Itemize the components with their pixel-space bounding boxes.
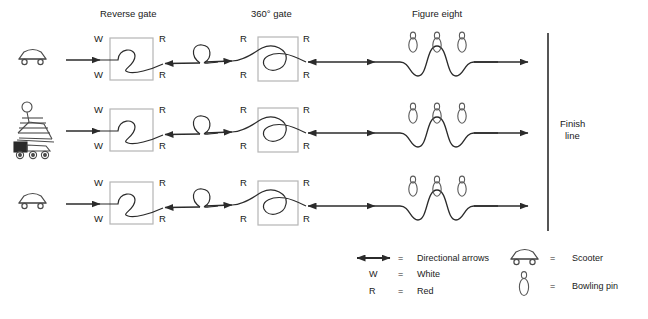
course-row-2 <box>14 102 528 159</box>
power-wheelchair-icon <box>14 102 54 159</box>
course-diagram-svg <box>0 0 648 319</box>
legend-scooter-icon <box>511 250 538 265</box>
row2-gate360-label-bottom-left: R <box>240 140 247 151</box>
row2-reverse-gate-label-top-right: R <box>159 104 166 115</box>
row1-gate360-label-bottom-left: R <box>240 69 247 80</box>
row3-gate360-label-bottom-right: R <box>303 213 310 224</box>
legend-equals-4: = <box>550 281 555 291</box>
row2-reverse-gate-label-bottom-left: W <box>94 140 103 151</box>
gate-360-path <box>232 117 306 141</box>
reverse-gate-box <box>110 38 153 80</box>
row1-reverse-gate-label-bottom-right: R <box>159 69 166 80</box>
midpoint-loop <box>193 45 218 63</box>
legend-symbol-white: W <box>369 269 378 279</box>
legend-bowling-pin-icon <box>519 272 528 296</box>
legend-label-scooter: Scooter <box>572 253 603 263</box>
legend-equals-2: = <box>398 286 403 296</box>
row3-gate360-label-top-left: R <box>240 177 247 188</box>
row3-reverse-gate-label-bottom-left: W <box>94 213 103 224</box>
reverse-gate-box <box>110 109 153 151</box>
reverse-arrow <box>165 134 200 135</box>
row1-reverse-gate-label-bottom-left: W <box>94 69 103 80</box>
row3-reverse-gate-label-top-left: W <box>94 177 103 188</box>
row1-reverse-gate-label-top-left: W <box>94 33 103 44</box>
legend-label-red: Red <box>417 286 434 296</box>
legend-symbol-red: R <box>369 286 376 296</box>
row3-reverse-gate-label-top-right: R <box>159 177 166 188</box>
row2-gate360-label-bottom-right: R <box>303 140 310 151</box>
row1-gate360-label-top-left: R <box>240 33 247 44</box>
midpoint-loop <box>193 116 218 134</box>
bowling-pin-icon <box>409 32 417 52</box>
row3-gate360-label-bottom-left: R <box>240 213 247 224</box>
finish-line-label-1: Finish <box>560 118 585 130</box>
legend-equals-1: = <box>398 269 403 279</box>
row2-reverse-gate-label-bottom-right: R <box>159 140 166 151</box>
row3-reverse-gate-label-bottom-right: R <box>159 213 166 224</box>
bowling-pin-icon <box>458 103 466 123</box>
legend-label-white: White <box>417 269 440 279</box>
scooter-icon <box>19 50 46 65</box>
legend-label-directional-arrows: Directional arrows <box>417 253 489 263</box>
figure-eight-path <box>375 190 498 220</box>
legend-equals-0: = <box>398 253 403 263</box>
row1-gate360-label-bottom-right: R <box>303 69 310 80</box>
section-header-reverse-gate: Reverse gate <box>100 8 157 19</box>
bowling-pin-icon <box>433 32 441 52</box>
row3-gate360-label-top-right: R <box>303 177 310 188</box>
figure-eight-path <box>375 117 498 147</box>
bowling-pin-icon <box>433 176 441 196</box>
bowling-pin-icon <box>433 103 441 123</box>
bowling-pin-icon <box>458 32 466 52</box>
row2-gate360-label-top-right: R <box>303 104 310 115</box>
mid-arrow <box>205 132 232 133</box>
reverse-arrow <box>165 63 200 64</box>
mid-arrow <box>205 61 232 62</box>
midpoint-loop <box>193 189 218 207</box>
row1-gate360-label-top-right: R <box>303 33 310 44</box>
section-header-figure-eight: Figure eight <box>412 8 462 19</box>
bowling-pin-icon <box>409 176 417 196</box>
row2-gate360-label-top-left: R <box>240 104 247 115</box>
scooter-icon <box>19 194 46 209</box>
gate-360-path <box>232 190 306 214</box>
gate-360-path <box>232 46 306 70</box>
finish-line-label-2: line <box>565 130 580 142</box>
row2-reverse-gate-label-top-left: W <box>94 104 103 115</box>
bowling-pin-icon <box>458 176 466 196</box>
diagram-canvas: Reverse gate 360° gate Figure eight Fini… <box>0 0 648 319</box>
bowling-pin-icon <box>409 103 417 123</box>
reverse-gate-box <box>110 182 153 224</box>
section-header-360-gate: 360° gate <box>251 8 292 19</box>
figure-eight-path <box>375 46 498 76</box>
reverse-arrow <box>165 207 200 208</box>
legend-label-bowling-pin: Bowling pin <box>572 281 618 291</box>
mid-arrow <box>205 205 232 206</box>
row1-reverse-gate-label-top-right: R <box>159 33 166 44</box>
legend-equals-3: = <box>550 253 555 263</box>
